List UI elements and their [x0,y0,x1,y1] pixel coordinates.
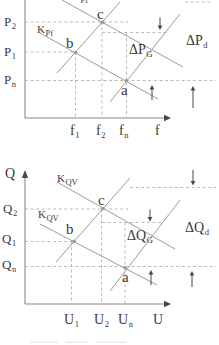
label-sub: QV [46,213,58,223]
top-chart-lines [25,0,216,121]
label-base: U [64,312,74,327]
top-xtick-f2: f2 [96,124,105,138]
top-x-axis-letter: f [155,124,160,138]
label-base: U [94,312,104,327]
bottom-xtick-un: Un [118,313,133,327]
bottom-up-arrow-2-icon [190,271,195,276]
bottom-xtick-u1: U1 [64,313,79,327]
label-sub: d [205,227,209,237]
bottom-curve-label-kqv-upper: KQV [57,173,78,184]
label-base: Q [5,166,15,181]
label-base: ΔQ [185,220,204,235]
label-base: P [4,72,11,87]
bottom-ytick-qn: Qn [2,258,16,271]
label-base: U [118,312,128,327]
label-sub: n [124,130,128,140]
top-point-b [74,51,78,55]
label-sub: Pf [45,28,53,38]
label-base: ΔP [186,33,203,48]
label-sub: 1 [75,319,79,329]
caption-smudge [66,342,88,344]
label-base: f [155,123,160,138]
label-base: f [70,123,75,138]
label-base: f [119,123,124,138]
label-sub: 1 [12,238,16,248]
label-sub: 2 [13,208,17,218]
bottom-droop-line-2 [57,182,175,249]
cut-off-caption-remnant [30,342,126,344]
label-sub: 2 [105,319,109,329]
bottom-xtick-u2: U2 [94,313,109,327]
label-sub: G [146,49,152,59]
figure-canvas: KPf P2 KPf P1 Pn c b a ΔPG ΔPd f1 f2 fn … [0,0,219,345]
bottom-curve-label-kqv-lower: KQV [38,209,59,220]
label-sub: d [203,40,207,50]
label-base: P [4,14,11,29]
label-sub: n [12,264,16,274]
bottom-down-arrow-right-icon [191,181,196,186]
label-sub: n [12,79,16,89]
bottom-point-b [72,240,76,244]
label-base: U [153,312,163,327]
bottom-ytick-q1: Q1 [2,232,16,245]
label-base: Q [3,201,12,216]
label-sub: 1 [75,130,79,140]
top-down-arrow-icon [158,26,163,31]
bottom-load-line-2 [56,178,130,262]
bottom-down-arrow-mid-icon [148,217,153,222]
caption-smudge [96,342,126,344]
bottom-point-label-c: c [98,193,105,208]
bottom-annotation-dqg: ΔQG [127,229,153,243]
label-base: K [57,172,65,184]
top-point-label-b: b [66,36,74,51]
label-base: Q [2,231,11,246]
bottom-x-axis-letter: U [153,313,164,327]
label-sub: G [147,235,153,245]
bottom-y-axis-arrowhead-icon [22,170,28,178]
label-base: K [37,23,45,35]
caption-smudge [30,342,58,344]
bottom-annotation-dqd: ΔQd [185,221,209,235]
top-xtick-f1: f1 [70,124,79,138]
label-sub: n [129,319,133,329]
top-annotation-dpd: ΔPd [186,34,208,48]
label-sub: Pf [80,0,88,5]
top-up-arrow-2-icon [191,86,196,91]
top-curve-label-kpf-upper: KPf [72,0,88,2]
label-sub: 2 [101,130,105,140]
top-xtick-fn: fn [119,124,128,138]
bottom-y-axis-letter: Q [5,167,16,181]
figure-lines-svg [0,0,219,345]
label-base: K [72,0,80,2]
label-base: ΔP [129,42,146,57]
bottom-point-label-b: b [66,222,74,237]
bottom-up-arrow-1-icon [149,270,154,275]
label-base: f [96,123,101,138]
label-base: P [4,44,11,59]
top-ytick-p2: P2 [4,15,16,28]
top-point-label-c: c [97,7,104,22]
label-base: Q [2,257,11,272]
top-point-label-a: a [121,83,128,98]
bottom-x-axis-arrowhead-icon [164,301,171,307]
bottom-chart-lines [22,170,216,307]
top-up-arrow-1-icon [150,85,155,90]
top-x-axis-arrowhead-icon [164,115,171,121]
top-annotation-dpg: ΔPG [129,43,152,57]
top-curve-label-kpf-lower: KPf [37,24,53,35]
bottom-point-label-a: a [122,270,129,285]
label-sub: QV [65,177,77,187]
label-base: K [38,208,46,220]
label-sub: 2 [12,21,16,31]
label-sub: 1 [12,51,16,61]
top-ytick-pn: Pn [4,73,16,86]
label-base: ΔQ [127,228,146,243]
bottom-ytick-q2: Q2 [3,202,17,215]
top-ytick-p1: P1 [4,45,16,58]
